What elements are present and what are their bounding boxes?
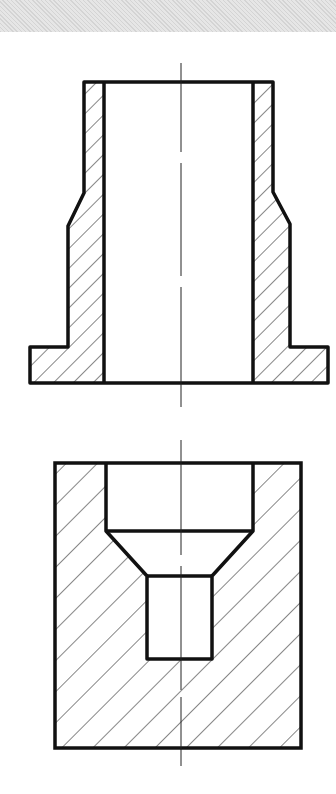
block-material [55, 463, 301, 748]
block-section [55, 463, 301, 748]
sleeve-section [30, 82, 328, 383]
drawing-canvas [0, 0, 336, 794]
